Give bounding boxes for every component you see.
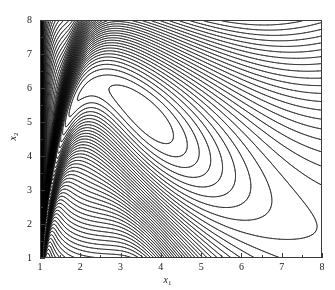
x-tick-label: 1 xyxy=(30,262,50,272)
y-axis-title: x2 xyxy=(7,117,18,157)
x-tick-minor xyxy=(221,255,222,258)
y-tick-major xyxy=(40,190,45,191)
y-tick-major xyxy=(40,156,45,157)
x-tick-major xyxy=(201,253,202,258)
y-tick-major xyxy=(40,258,45,259)
y-tick-minor xyxy=(40,241,43,242)
y-tick-major xyxy=(40,54,45,55)
contour-plot-figure: 12345678 12345678 x1 x2 xyxy=(0,0,335,290)
y-tick-minor xyxy=(40,37,43,38)
y-axis-title-subscript: 2 xyxy=(12,133,20,137)
y-tick-label: 6 xyxy=(14,83,32,93)
x-tick-label: 8 xyxy=(312,262,332,272)
x-tick-label: 4 xyxy=(151,262,171,272)
x-tick-major xyxy=(322,253,323,258)
x-tick-minor xyxy=(181,255,182,258)
x-tick-major xyxy=(121,253,122,258)
x-tick-minor xyxy=(141,255,142,258)
y-tick-major xyxy=(40,224,45,225)
x-tick-major xyxy=(80,253,81,258)
x-tick-major xyxy=(241,253,242,258)
y-tick-minor xyxy=(40,105,43,106)
y-tick-label: 3 xyxy=(14,185,32,195)
y-axis-title-symbol: x xyxy=(7,136,18,140)
x-tick-label: 3 xyxy=(111,262,131,272)
plot-area xyxy=(40,20,322,258)
y-tick-label: 7 xyxy=(14,49,32,59)
x-tick-minor xyxy=(60,255,61,258)
x-tick-minor xyxy=(302,255,303,258)
x-tick-label: 5 xyxy=(191,262,211,272)
x-tick-minor xyxy=(100,255,101,258)
y-tick-major xyxy=(40,122,45,123)
x-tick-label: 2 xyxy=(70,262,90,272)
y-tick-minor xyxy=(40,139,43,140)
x-axis-title-subscript: 1 xyxy=(168,279,172,287)
y-tick-label: 8 xyxy=(14,15,32,25)
y-tick-label: 2 xyxy=(14,219,32,229)
x-tick-label: 6 xyxy=(231,262,251,272)
y-tick-minor xyxy=(40,71,43,72)
x-tick-major xyxy=(161,253,162,258)
y-tick-minor xyxy=(40,173,43,174)
contour-lines-canvas xyxy=(41,21,322,258)
x-tick-label: 7 xyxy=(272,262,292,272)
y-tick-major xyxy=(40,20,45,21)
y-tick-label: 1 xyxy=(14,253,32,263)
x-tick-major xyxy=(282,253,283,258)
x-tick-minor xyxy=(262,255,263,258)
y-tick-minor xyxy=(40,207,43,208)
x-axis-title: x1 xyxy=(0,274,335,285)
y-tick-major xyxy=(40,88,45,89)
